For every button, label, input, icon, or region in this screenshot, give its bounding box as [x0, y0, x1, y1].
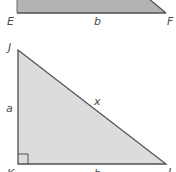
- vertex-label-k: K: [7, 167, 15, 172]
- side-label-b-top: b: [94, 15, 101, 28]
- side-label-b-bottom: b: [94, 167, 101, 172]
- trapezoid-shape: [17, 0, 166, 13]
- vertex-label-l: L: [168, 166, 174, 172]
- vertex-label-f: F: [167, 15, 174, 28]
- side-label-a: a: [6, 102, 13, 115]
- side-label-x: x: [93, 95, 101, 108]
- top-figure: E b F: [7, 0, 174, 28]
- bottom-figure: J a x K b L: [6, 41, 174, 172]
- vertex-label-j: J: [6, 41, 11, 54]
- vertex-label-e: E: [7, 15, 14, 28]
- right-triangle-shape: [18, 50, 166, 164]
- geometry-diagram: E b F J a x K b L: [0, 0, 176, 172]
